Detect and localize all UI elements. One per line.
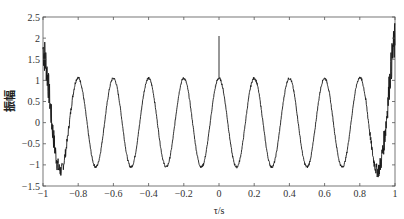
x-tick-label: 0.2 [248,188,261,199]
y-axis-title: 振幅 [3,90,17,112]
x-tick-label: −0.2 [175,188,193,199]
y-tick-label: 2.5 [28,12,41,23]
x-tick-label: 0 [217,188,222,199]
y-axis: −1.5−1−0.500.511.522.5 [22,12,395,192]
x-tick-label: 0.8 [354,188,367,199]
x-tick-label: 0.4 [283,188,296,199]
x-tick-label: 1 [393,188,398,199]
y-tick-label: −1.5 [22,181,40,192]
y-tick-label: 1 [35,75,40,86]
plot-area [43,17,395,186]
x-tick-label: −0.4 [140,188,158,199]
y-tick-label: 1.5 [28,54,41,65]
x-tick-label: −0.6 [104,188,122,199]
chart: −1−0.8−0.6−0.4−0.200.20.40.60.81 −1.5−1−… [0,0,404,219]
x-tick-label: 0.6 [318,188,331,199]
x-axis: −1−0.8−0.6−0.4−0.200.20.40.60.81 [38,17,398,199]
y-tick-label: 2 [35,33,40,44]
y-tick-label: −0.5 [22,138,40,149]
y-tick-label: 0.5 [28,96,41,107]
x-axis-title: τ/s [214,205,225,216]
y-tick-label: −1 [29,159,40,170]
x-tick-label: −0.8 [69,188,87,199]
y-tick-label: 0 [35,117,40,128]
